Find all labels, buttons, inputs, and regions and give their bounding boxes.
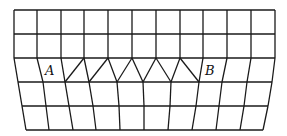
mesh-vertical-edge — [43, 82, 46, 106]
mesh-edge — [61, 58, 65, 82]
mesh-vertical-edge — [219, 82, 222, 106]
mesh-grid-svg — [0, 0, 287, 136]
mesh-vertical-edge — [244, 82, 247, 106]
mesh-vertical-edge — [240, 106, 244, 130]
mesh-edge — [37, 58, 43, 82]
mesh-boundary-edge — [272, 58, 275, 82]
mesh-vertical-edge — [69, 106, 73, 130]
transition-edge — [84, 58, 89, 82]
mesh-vertical-edge — [65, 82, 69, 106]
mesh-vertical-edge — [192, 106, 196, 130]
mesh-vertical-edge — [22, 106, 26, 130]
transition-edge — [132, 58, 143, 82]
transition-edge — [65, 58, 84, 82]
mesh-vertical-edge — [196, 82, 199, 106]
transition-edge — [108, 58, 117, 82]
mesh-vertical-edge — [170, 82, 171, 106]
transition-edge — [156, 58, 171, 82]
mesh-vertical-edge — [143, 82, 144, 106]
mesh-diagram: A B — [0, 0, 287, 136]
mesh-vertical-edge — [268, 82, 272, 106]
mesh-vertical-edge — [216, 106, 219, 130]
transition-edge — [143, 58, 156, 82]
mesh-vertical-edge — [89, 82, 93, 106]
transition-edge — [171, 58, 180, 82]
transition-edge — [180, 58, 199, 82]
mesh-vertical-edge — [46, 106, 49, 130]
region-label-b: B — [205, 63, 215, 78]
region-label-a: A — [45, 63, 54, 78]
mesh-boundary-edge — [14, 58, 18, 82]
mesh-vertical-edge — [119, 106, 120, 130]
transition-edge — [89, 58, 108, 82]
mesh-vertical-edge — [117, 82, 119, 106]
mesh-edge — [222, 58, 227, 82]
mesh-edge — [199, 58, 203, 82]
transition-edge — [117, 58, 132, 82]
mesh-vertical-edge — [263, 106, 268, 130]
mesh-edge — [247, 58, 251, 82]
mesh-vertical-edge — [93, 106, 96, 130]
mesh-vertical-edge — [168, 106, 170, 130]
mesh-vertical-edge — [18, 82, 22, 106]
